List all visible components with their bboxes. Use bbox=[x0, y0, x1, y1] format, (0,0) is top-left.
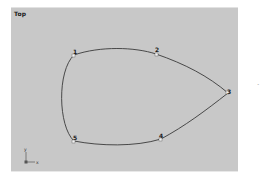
vertex-label-1: 1 bbox=[73, 48, 77, 55]
spline-scene[interactable]: 1 2 3 4 5 y x bbox=[11, 8, 238, 171]
vertex-3[interactable]: 3 bbox=[226, 88, 231, 95]
vertex-1[interactable]: 1 bbox=[72, 48, 77, 57]
vertex-label-2: 2 bbox=[155, 46, 159, 53]
vertex-label-4: 4 bbox=[159, 132, 163, 139]
vertex-label-3: 3 bbox=[227, 88, 231, 95]
axis-origin-icon bbox=[25, 161, 28, 164]
top-viewport[interactable]: Top 1 2 3 4 5 y x bbox=[11, 7, 238, 172]
closed-spline[interactable] bbox=[62, 49, 228, 145]
vertex-label-5: 5 bbox=[73, 134, 77, 141]
stray-dot-icon: • bbox=[257, 82, 260, 85]
axis-gizmo: y x bbox=[24, 147, 39, 165]
x-axis-label: x bbox=[36, 160, 39, 165]
vertex-4[interactable]: 4 bbox=[159, 132, 163, 141]
y-axis-label: y bbox=[24, 147, 27, 152]
